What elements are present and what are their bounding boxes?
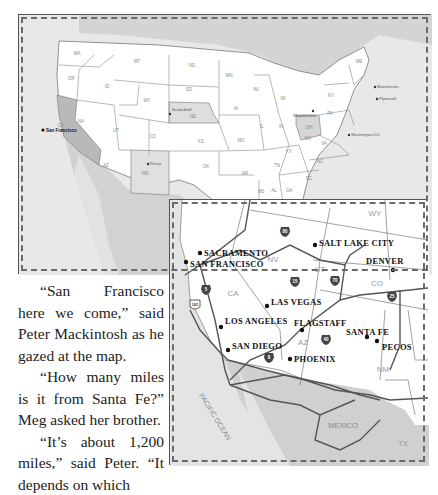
svg-text:MS: MS xyxy=(258,189,265,194)
svg-text:WV: WV xyxy=(304,136,311,141)
svg-text:MI: MI xyxy=(281,96,286,101)
city-los-angeles: LOS ANGELES xyxy=(225,316,288,326)
svg-text:AL: AL xyxy=(271,188,277,193)
svg-text:IN: IN xyxy=(279,124,284,129)
svg-text:Pecos: Pecos xyxy=(150,161,162,166)
svg-text:NY: NY xyxy=(328,93,334,98)
southwest-inset-map: SACRAMENTO SAN FRANCISCO SALT LAKE CITY … xyxy=(169,199,428,465)
svg-text:Manchester: Manchester xyxy=(377,84,399,89)
svg-text:OK: OK xyxy=(203,164,210,169)
svg-text:ME: ME xyxy=(356,59,363,64)
southwest-map-graphic: SACRAMENTO SAN FRANCISCO SALT LAKE CITY … xyxy=(170,200,429,466)
city-san-diego: SAN DIEGO xyxy=(232,341,282,351)
svg-text:IA: IA xyxy=(234,106,238,111)
svg-text:Wapakoneta: Wapakoneta xyxy=(293,113,317,118)
svg-text:KY: KY xyxy=(286,149,292,154)
city-sacramento: SACRAMENTO xyxy=(204,248,268,258)
svg-text:PA: PA xyxy=(327,111,333,116)
svg-text:NM: NM xyxy=(377,365,390,374)
svg-text:IL: IL xyxy=(260,124,264,129)
svg-text:WA: WA xyxy=(73,51,80,56)
svg-text:NM: NM xyxy=(142,171,149,176)
svg-text:CO: CO xyxy=(150,134,157,139)
city-phoenix: PHOENIX xyxy=(294,354,336,364)
city-las-vegas: LAS VEGAS xyxy=(271,297,322,307)
svg-text:TX: TX xyxy=(398,439,409,448)
svg-text:GA: GA xyxy=(286,188,293,193)
svg-text:CA: CA xyxy=(227,289,239,298)
svg-text:Plymouth: Plymouth xyxy=(379,96,397,101)
svg-text:AZ: AZ xyxy=(103,163,109,168)
svg-text:MN: MN xyxy=(226,73,233,78)
story-text: “San Francisco here we come,” said Peter… xyxy=(18,272,164,495)
city-denver: DENVER xyxy=(366,256,404,266)
svg-text:101: 101 xyxy=(192,303,198,307)
svg-text:ND: ND xyxy=(189,63,196,68)
svg-text:MT: MT xyxy=(134,59,141,64)
svg-text:MO: MO xyxy=(237,138,245,143)
svg-text:UT: UT xyxy=(315,265,326,274)
svg-text:Scottsbluff: Scottsbluff xyxy=(172,107,192,112)
svg-text:WY: WY xyxy=(369,209,383,218)
story-paragraph: “San Francisco here we come,” said Peter… xyxy=(18,280,164,366)
svg-text:NC: NC xyxy=(317,159,324,164)
city-pecos: PECOS xyxy=(382,342,412,352)
svg-text:NV: NV xyxy=(267,255,279,264)
svg-text:KS: KS xyxy=(198,139,204,144)
city-salt-lake-city: SALT LAKE CITY xyxy=(319,238,394,248)
svg-text:80: 80 xyxy=(282,229,288,234)
svg-text:NV: NV xyxy=(78,119,84,124)
svg-text:VA: VA xyxy=(321,141,327,146)
svg-text:Washington DC: Washington DC xyxy=(351,132,380,137)
svg-text:25: 25 xyxy=(389,294,395,299)
svg-text:AZ: AZ xyxy=(298,338,308,347)
svg-text:MEXICO: MEXICO xyxy=(328,421,358,430)
svg-text:SC: SC xyxy=(306,176,313,181)
svg-text:WY: WY xyxy=(143,98,150,103)
svg-text:UT: UT xyxy=(113,128,119,133)
story-paragraph: “It’s about 1,200 miles,” said Peter. “I… xyxy=(18,431,164,495)
svg-text:CO: CO xyxy=(371,279,383,288)
svg-text:OH: OH xyxy=(306,125,313,130)
svg-text:TN: TN xyxy=(274,163,280,168)
svg-text:OR: OR xyxy=(68,76,76,81)
svg-text:SD: SD xyxy=(186,87,193,92)
story-paragraph: “How many miles is it from Santa Fe?” Me… xyxy=(18,366,164,431)
svg-text:San Francisco: San Francisco xyxy=(46,128,77,133)
svg-text:40: 40 xyxy=(323,337,329,342)
city-san-francisco: SAN FRANCISCO xyxy=(190,259,264,269)
svg-text:AR: AR xyxy=(242,171,249,176)
city-flagstaff: FLAGSTAFF xyxy=(294,318,347,328)
svg-text:15: 15 xyxy=(292,279,298,284)
svg-text:ID: ID xyxy=(105,84,110,89)
svg-text:NE: NE xyxy=(190,114,196,119)
svg-text:WI: WI xyxy=(253,87,259,92)
svg-text:70: 70 xyxy=(332,278,338,283)
city-santa-fe: SANTA FE xyxy=(346,327,389,337)
